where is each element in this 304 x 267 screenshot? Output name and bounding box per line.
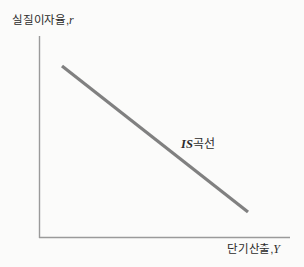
- y-axis-label-symbol: r: [69, 13, 73, 27]
- is-curve-label-text: 곡선: [193, 137, 215, 151]
- x-axis-label-text: 단기산출,: [227, 243, 273, 255]
- y-axis-label-text: 실질이자율,: [12, 14, 69, 26]
- x-axis-label-symbol: Y: [273, 242, 279, 256]
- y-axis-label: 실질이자율,r: [12, 14, 73, 27]
- x-axis-label: 단기산출,Y: [227, 243, 280, 256]
- is-curve-label: IS곡선: [181, 138, 215, 151]
- is-curve-line: [62, 66, 248, 212]
- is-curve-label-symbol: IS: [181, 137, 193, 151]
- plot-area: [0, 0, 304, 267]
- is-curve-figure: 실질이자율,r 단기산출,Y IS곡선: [0, 0, 304, 267]
